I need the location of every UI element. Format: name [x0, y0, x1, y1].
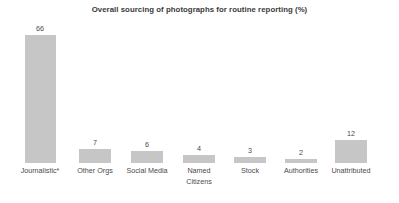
x-axis-labels: Journalistic*Other OrgsSocial MediaNamed… [0, 166, 399, 203]
bar-value-label: 2 [285, 148, 317, 157]
bar-group[interactable]: 4 [183, 22, 215, 163]
bar-value-label: 7 [79, 138, 111, 147]
bar-group[interactable]: 2 [285, 22, 317, 163]
bar[interactable] [335, 140, 367, 163]
x-axis-tick-label-line: Citizens [170, 177, 228, 188]
x-axis-tick-label: Social Media [118, 166, 176, 177]
x-axis-tick-label-line: Stock [221, 166, 279, 177]
x-axis-tick-label: Other Orgs [66, 166, 124, 177]
x-axis-tick-label: Stock [221, 166, 279, 177]
bar-group[interactable]: 3 [234, 22, 266, 163]
bar-value-label: 12 [335, 129, 367, 138]
x-axis-tick-label: Journalistic* [11, 166, 69, 177]
bar-group[interactable]: 66 [25, 22, 56, 163]
plot-area: 667643212 [0, 22, 399, 163]
bar-value-label: 66 [25, 24, 56, 33]
bar-value-label: 6 [131, 140, 163, 149]
bar[interactable] [25, 35, 56, 163]
bar[interactable] [183, 155, 215, 163]
x-axis-tick-label: Unattributed [322, 166, 380, 177]
bar-group[interactable]: 7 [79, 22, 111, 163]
bar-value-label: 4 [183, 144, 215, 153]
x-axis-tick-label-line: Named [170, 166, 228, 177]
x-axis-tick-label-line: Unattributed [322, 166, 380, 177]
bar-chart: Overall sourcing of photographs for rout… [0, 0, 399, 203]
x-axis-tick-label-line: Journalistic* [11, 166, 69, 177]
x-axis-tick-label-line: Other Orgs [66, 166, 124, 177]
bar[interactable] [79, 149, 111, 163]
bar[interactable] [285, 159, 317, 163]
bar-group[interactable]: 6 [131, 22, 163, 163]
chart-title: Overall sourcing of photographs for rout… [0, 4, 399, 15]
x-axis-tick-label: NamedCitizens [170, 166, 228, 187]
bar[interactable] [131, 151, 163, 163]
bar-group[interactable]: 12 [335, 22, 367, 163]
x-axis-tick-label-line: Social Media [118, 166, 176, 177]
bar[interactable] [234, 157, 266, 163]
bar-value-label: 3 [234, 146, 266, 155]
